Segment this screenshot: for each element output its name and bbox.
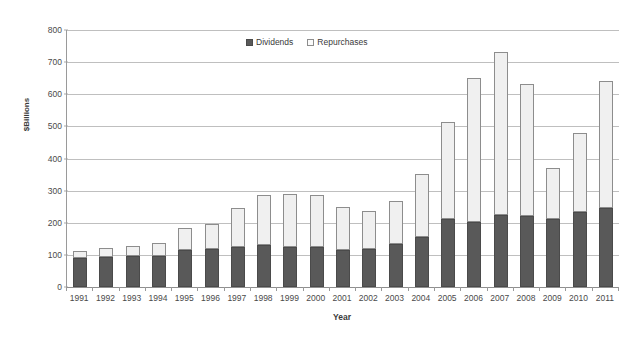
bar-column — [467, 30, 481, 287]
bar-segment-dividends — [467, 222, 481, 287]
bar-segment-dividends — [205, 249, 219, 287]
legend-item-repurchases: Repurchases — [307, 37, 367, 47]
bar-segment-dividends — [494, 215, 508, 287]
x-axis-tick-mark — [565, 287, 566, 291]
bar-segment-repurchases — [415, 174, 429, 237]
x-axis-tick-mark — [592, 287, 593, 291]
plot-area — [66, 30, 619, 287]
bar-segment-dividends — [178, 250, 192, 287]
bar-segment-dividends — [283, 247, 297, 287]
bar-segment-repurchases — [599, 81, 613, 207]
x-axis-title: Year — [66, 312, 618, 322]
bar-segment-repurchases — [494, 52, 508, 216]
bar-column — [494, 30, 508, 287]
x-axis-tick-mark — [408, 287, 409, 291]
bar-column — [336, 30, 350, 287]
y-axis-tick-label: 400 — [30, 154, 62, 163]
bar-column — [389, 30, 403, 287]
bar-segment-repurchases — [205, 224, 219, 249]
open-square-icon — [307, 39, 314, 46]
bar-column — [573, 30, 587, 287]
x-axis-tick-mark — [539, 287, 540, 291]
bar-column — [152, 30, 166, 287]
bar-segment-repurchases — [283, 194, 297, 246]
bar-segment-dividends — [231, 247, 245, 287]
bar-segment-dividends — [573, 212, 587, 287]
x-axis-tick-label: 2011 — [588, 293, 622, 303]
x-axis-tick-mark — [329, 287, 330, 291]
x-axis-tick-mark — [66, 287, 67, 291]
x-axis-tick-mark — [145, 287, 146, 291]
bar-column — [310, 30, 324, 287]
x-axis-tick-mark — [381, 287, 382, 291]
y-axis-tick-label: 500 — [30, 122, 62, 131]
bar-segment-repurchases — [336, 207, 350, 249]
bar-column — [178, 30, 192, 287]
y-axis-tick-label: 600 — [30, 90, 62, 99]
bar-segment-dividends — [73, 258, 87, 287]
bar-column — [441, 30, 455, 287]
bar-segment-dividends — [310, 247, 324, 287]
bar-segment-repurchases — [520, 84, 534, 216]
x-axis-tick-mark — [513, 287, 514, 291]
bar-segment-repurchases — [126, 246, 140, 256]
bar-column — [546, 30, 560, 287]
bar-segment-dividends — [152, 256, 166, 287]
x-axis-tick-mark — [276, 287, 277, 291]
bar-column — [73, 30, 87, 287]
x-axis-tick-mark — [487, 287, 488, 291]
x-axis-tick-mark — [119, 287, 120, 291]
bar-segment-dividends — [415, 237, 429, 287]
y-axis-tick-label: 100 — [30, 251, 62, 260]
bar-column — [231, 30, 245, 287]
bar-segment-repurchases — [73, 251, 87, 258]
bar-column — [257, 30, 271, 287]
bar-segment-dividends — [520, 216, 534, 287]
bar-segment-repurchases — [362, 211, 376, 249]
bar-segment-repurchases — [389, 201, 403, 245]
bar-series-group — [67, 30, 619, 287]
bar-segment-dividends — [599, 208, 613, 287]
x-axis-tick-mark — [224, 287, 225, 291]
x-axis-tick-mark — [355, 287, 356, 291]
x-axis-tick-mark — [92, 287, 93, 291]
bar-segment-repurchases — [152, 243, 166, 256]
bar-segment-dividends — [441, 219, 455, 287]
bar-segment-dividends — [389, 244, 403, 287]
bar-segment-repurchases — [310, 195, 324, 246]
y-axis-tick-labels: 0100200300400500600700800 — [30, 0, 62, 341]
bar-segment-dividends — [99, 257, 113, 287]
x-axis-tick-labels: 1991199219931994199519961997199819992000… — [66, 293, 618, 307]
bar-segment-dividends — [546, 219, 560, 287]
bar-segment-repurchases — [441, 122, 455, 219]
y-axis-tick-label: 0 — [30, 283, 62, 292]
bar-segment-repurchases — [257, 195, 271, 246]
bar-column — [362, 30, 376, 287]
x-axis-tick-mark — [197, 287, 198, 291]
bar-column — [126, 30, 140, 287]
legend-label-dividends: Dividends — [256, 37, 293, 47]
bar-segment-repurchases — [231, 208, 245, 247]
bar-segment-repurchases — [546, 168, 560, 218]
bar-segment-repurchases — [178, 228, 192, 250]
bar-column — [283, 30, 297, 287]
filled-square-icon — [246, 39, 253, 46]
y-axis-tick-label: 700 — [30, 58, 62, 67]
bar-column — [99, 30, 113, 287]
x-axis-tick-mark — [303, 287, 304, 291]
bar-column — [520, 30, 534, 287]
y-axis-tick-label: 300 — [30, 186, 62, 195]
bar-column — [415, 30, 429, 287]
x-axis-tick-marks — [66, 287, 618, 292]
bar-segment-repurchases — [467, 78, 481, 222]
bar-segment-dividends — [257, 245, 271, 287]
bar-segment-repurchases — [99, 248, 113, 257]
x-axis-tick-mark — [171, 287, 172, 291]
chart-legend: Dividends Repurchases — [246, 36, 367, 48]
bar-segment-repurchases — [573, 133, 587, 213]
bar-segment-dividends — [362, 249, 376, 287]
x-axis-tick-mark — [434, 287, 435, 291]
y-axis-tick-label: 200 — [30, 219, 62, 228]
bar-segment-dividends — [336, 250, 350, 287]
x-axis-tick-mark — [618, 287, 619, 291]
